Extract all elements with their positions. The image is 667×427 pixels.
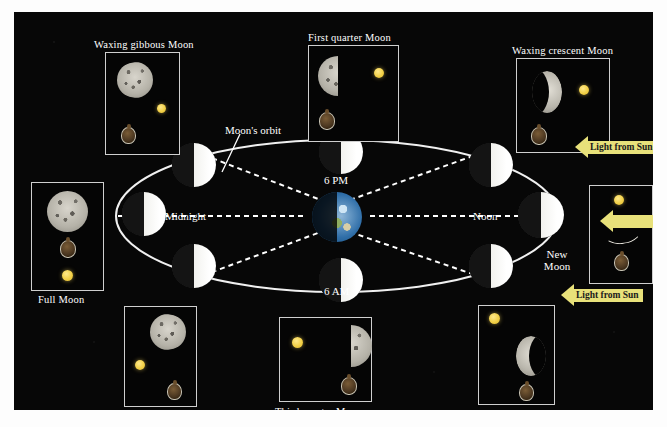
earth: [312, 192, 362, 242]
light-from-sun-label-bottom: Light from Sun: [576, 290, 639, 300]
orbit-moon-full-position: [122, 192, 166, 236]
observer-figure: [614, 254, 629, 271]
earth-night-side: [312, 192, 337, 242]
time-label-6am: 6 AM: [324, 285, 349, 297]
moon-lit-side: [541, 192, 564, 238]
observer-figure: [531, 127, 547, 145]
moon-image-first-quarter: [318, 56, 358, 96]
sun-dot: [157, 104, 166, 113]
arrow-head-icon: [561, 284, 574, 306]
orbit-moon-waning-gibbous-position: [172, 244, 216, 288]
caption-first-quarter: First quarter Moon: [308, 32, 391, 43]
moon-orbit-label: Moon's orbit: [225, 124, 281, 136]
moon-dark-side: [469, 244, 491, 288]
caption-waning-crescent: Waning crescent Moon: [471, 408, 572, 410]
panel-new-moon: [589, 185, 653, 284]
observer-figure: [121, 127, 136, 144]
sun-dot: [292, 337, 303, 348]
moon-image-third-quarter: [330, 325, 372, 367]
orbit-moon-new-position: [518, 192, 564, 238]
observer-figure: [519, 384, 534, 401]
moon-dark-side: [469, 143, 491, 187]
observer-figure: [341, 377, 357, 395]
panel-waxing-gibbous: [105, 52, 180, 155]
observer-figure: [60, 240, 76, 258]
sun-dot: [489, 313, 500, 324]
panel-first-quarter: [308, 45, 399, 142]
panel-full-moon: [31, 182, 104, 291]
moon-image-full: [47, 191, 88, 232]
time-label-noon: Noon: [473, 210, 497, 222]
arrow-head-icon: [575, 136, 588, 158]
caption-waxing-crescent: Waxing crescent Moon: [512, 45, 613, 56]
caption-waxing-gibbous: Waxing gibbous Moon: [94, 39, 194, 50]
arrow-head-icon: [600, 210, 613, 232]
moon-image-waxing-gibbous: [117, 62, 153, 98]
moon-dark-side: [518, 192, 541, 238]
moon-lit-side: [194, 143, 216, 187]
moon-lit-side: [491, 244, 513, 288]
arrow-tail: Light from Sun: [574, 289, 643, 302]
moon-dark-side: [172, 244, 194, 288]
panel-third-quarter: [279, 317, 372, 402]
sun-dot: [135, 360, 145, 370]
light-from-sun-arrow-top: Light from Sun: [575, 136, 653, 158]
moon-lit-side: [194, 244, 216, 288]
panel-waning-gibbous: [124, 306, 197, 407]
moon-lit-side: [144, 192, 166, 236]
light-from-sun-arrow-middle: [600, 210, 653, 232]
sun-dot: [579, 85, 589, 95]
moon-image-waxing-crescent: [532, 71, 562, 113]
caption-third-quarter: Third quarter Moon: [275, 406, 362, 410]
new-moon-label-line1: New: [547, 248, 568, 260]
new-moon-label-line2: Moon: [544, 260, 570, 272]
caption-full-moon: Full Moon: [38, 294, 84, 305]
time-label-midnight: Midnight: [165, 210, 206, 222]
arrow-tail: [613, 215, 653, 228]
orbit-moon-waning-crescent-position: [469, 244, 513, 288]
sun-dot: [62, 270, 73, 281]
light-from-sun-label-top: Light from Sun: [590, 142, 653, 152]
observer-figure: [319, 112, 335, 130]
moon-phases-figure: Moon's orbit 6 PM Midnight 6 AM Noon New…: [0, 0, 667, 427]
moon-lit-side: [491, 143, 513, 187]
sun-dot: [614, 195, 624, 205]
new-moon-orbit-label: New Moon: [538, 248, 576, 272]
light-from-sun-arrow-bottom: Light from Sun: [561, 284, 643, 306]
arrow-tail: Light from Sun: [588, 141, 653, 154]
night-sky-background: Moon's orbit 6 PM Midnight 6 AM Noon New…: [14, 12, 653, 410]
sun-dot: [374, 68, 384, 78]
observer-figure: [167, 383, 182, 400]
time-label-6pm: 6 PM: [324, 174, 348, 186]
orbit-moon-waxing-crescent-position: [469, 143, 513, 187]
moon-image-waning-gibbous: [150, 314, 186, 350]
moon-image-waning-crescent: [516, 336, 546, 376]
panel-waning-crescent: [478, 305, 555, 405]
moon-dark-side: [122, 192, 144, 236]
